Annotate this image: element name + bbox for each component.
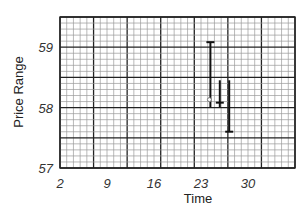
plot-grid [60,17,295,168]
plot-border [60,17,295,168]
x-tick-label: 9 [103,176,110,191]
y-axis-ticks: 575859 [39,40,54,176]
price-bars [206,42,233,132]
price-bar [225,80,233,131]
open-marker [207,98,211,102]
x-axis-ticks: 29162330 [55,176,256,191]
x-axis-title: Time [184,191,212,206]
x-tick-label: 16 [147,176,162,191]
y-axis-title: Price Range [11,56,26,128]
y-tick-label: 57 [39,161,54,176]
x-tick-label: 23 [193,176,209,191]
y-tick-label: 58 [39,101,54,116]
y-tick-label: 59 [39,40,53,55]
price-bar [216,80,224,107]
x-tick-label: 2 [55,176,64,191]
chart: 575859 29162330 Time Price Range [0,0,306,220]
x-tick-label: 30 [241,176,256,191]
